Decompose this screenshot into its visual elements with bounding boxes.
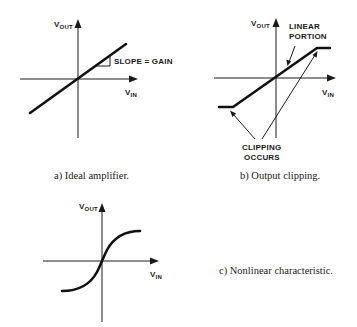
panel-c-x-axis-arrow-icon: [150, 258, 159, 265]
panel-b-y-axis-arrow-icon: [273, 18, 280, 27]
panel-b-caption: b) Output clipping.: [240, 170, 320, 182]
panel-a-y-axis-arrow-icon: [75, 19, 82, 28]
panel-c-y-axis-arrow-icon: [99, 203, 106, 212]
panel-c-vin-label: VIN: [150, 270, 162, 280]
panel-a-vout-label: VOUT: [54, 20, 73, 30]
panel-b-x-axis-arrow-icon: [327, 75, 336, 82]
panel-c-nonlinear-characteristic: VOUT VIN c) Nonlinear characteristic.: [43, 202, 333, 322]
panel-b-linear-portion-pointer: [289, 46, 295, 62]
panel-b-output-clipping: VOUT VIN LINEAR PORTION CLIPPING OCCURS …: [214, 18, 336, 182]
panel-a-slope-annotation: SLOPE = GAIN: [114, 57, 173, 66]
panel-c-caption: c) Nonlinear characteristic.: [219, 265, 333, 277]
panel-b-linear-label-line1: LINEAR: [289, 22, 320, 31]
panel-c-vout-label: VOUT: [79, 202, 98, 212]
panel-a-caption: a) Ideal amplifier.: [54, 170, 129, 182]
amplifier-transfer-characteristics-figure: VOUT VIN SLOPE = GAIN a) Ideal amplifier…: [0, 0, 357, 327]
panel-a-x-axis-arrow-icon: [129, 76, 138, 83]
panel-b-clipping-pointer-left: [233, 114, 255, 139]
panel-a-ideal-amplifier: VOUT VIN SLOPE = GAIN a) Ideal amplifier…: [20, 19, 173, 182]
panel-b-vout-label: VOUT: [251, 19, 270, 29]
panel-b-linear-portion-arrow-icon: [286, 60, 291, 67]
panel-a-vin-label: VIN: [125, 88, 137, 98]
panel-b-vin-label: VIN: [322, 88, 334, 98]
panel-b-clipping-label-line2: OCCURS: [244, 153, 280, 162]
panel-b-linear-label-line2: PORTION: [289, 32, 327, 41]
panel-b-clipping-label-line1: CLIPPING: [242, 143, 281, 152]
